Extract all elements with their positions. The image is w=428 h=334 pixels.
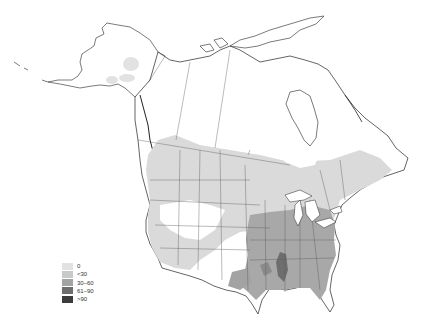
legend-swatch (62, 263, 73, 270)
legend-item-0: 0 (62, 262, 94, 270)
legend-swatch (62, 296, 73, 303)
legend-label: 0 (77, 262, 80, 270)
legend-item-gt90: >90 (62, 295, 94, 303)
alaska (14, 23, 165, 97)
legend-swatch (62, 287, 73, 294)
legend-item-30-60: 30–60 (62, 279, 94, 287)
legend: 0 <30 30–60 61–90 >90 (62, 262, 94, 303)
legend-label: <30 (77, 270, 87, 278)
legend-item-61-90: 61–90 (62, 287, 94, 295)
legend-label: >90 (77, 295, 87, 303)
legend-label: 30–60 (77, 279, 94, 287)
legend-swatch (62, 279, 73, 286)
legend-item-lt30: <30 (62, 270, 94, 278)
legend-swatch (62, 271, 73, 278)
legend-label: 61–90 (77, 287, 94, 295)
